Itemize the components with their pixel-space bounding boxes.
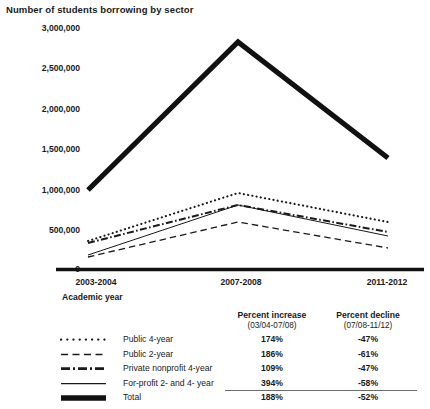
column-header-percent-increase: Percent increase (03/04-07/08)	[222, 310, 322, 331]
series-line-total	[88, 42, 388, 190]
line-style-dashed-icon	[60, 347, 118, 362]
value-increase-public-4-year: 174%	[222, 334, 322, 344]
legend-table-header: Percent increase (03/04-07/08) Percent d…	[60, 310, 426, 332]
chart-screenshot: { "chart_data": { "type": "line", "title…	[0, 0, 430, 409]
legend-label-private-nonprofit-4-year: Private nonprofit 4-year	[123, 363, 212, 373]
value-decline-total: -52%	[318, 392, 418, 402]
legend-row-for-profit-2-and-4-year: For-profit 2- and 4- year 394% -58%	[60, 376, 426, 391]
legend-label-for-profit-2-and-4-year: For-profit 2- and 4- year	[123, 378, 214, 388]
percent-increase-range: (03/04-07/08)	[222, 321, 322, 332]
line-style-solid-thick-icon	[60, 390, 118, 405]
column-header-percent-decline: Percent decline (07/08-11/12)	[318, 310, 418, 331]
value-decline-public-2-year: -61%	[318, 349, 418, 359]
percent-decline-title: Percent decline	[318, 310, 418, 321]
legend-row-public-4-year: Public 4-year 174% -47%	[60, 332, 426, 347]
x-tick-2007-2008: 2007-2008	[220, 277, 261, 287]
legend-table: Percent increase (03/04-07/08) Percent d…	[60, 310, 426, 405]
x-axis-title: Academic year	[62, 292, 123, 302]
legend-label-public-4-year: Public 4-year	[123, 334, 173, 344]
value-decline-for-profit-2-and-4-year: -58%	[318, 378, 418, 388]
plot-area: 0 500,000 1,000,000 1,500,000 2,000,000 …	[0, 0, 430, 300]
series-line-private-nonprofit-4-year	[88, 205, 388, 243]
x-tick-2003-2004: 2003-2004	[75, 277, 116, 287]
value-decline-private-nonprofit-4-year: -47%	[318, 363, 418, 373]
value-decline-public-4-year: -47%	[318, 334, 418, 344]
x-tick-2011-2012: 2011-2012	[367, 277, 408, 287]
legend-label-public-2-year: Public 2-year	[123, 349, 173, 359]
legend-row-public-2-year: Public 2-year 186% -61%	[60, 347, 426, 362]
line-style-dotted-icon	[60, 332, 118, 347]
series-line-for-profit-2-and-4-year	[88, 205, 388, 255]
legend-row-private-nonprofit-4-year: Private nonprofit 4-year 109% -47%	[60, 361, 426, 376]
value-increase-private-nonprofit-4-year: 109%	[222, 363, 322, 373]
percent-increase-title: Percent increase	[222, 310, 322, 321]
value-increase-for-profit-2-and-4-year: 394%	[222, 378, 322, 388]
value-increase-public-2-year: 186%	[222, 349, 322, 359]
line-style-solid-thin-icon	[60, 376, 118, 391]
series-line-public-4-year	[88, 193, 388, 241]
legend-label-total: Total	[123, 392, 141, 402]
line-style-dash-dot-icon	[60, 361, 118, 376]
value-increase-total: 188%	[222, 392, 322, 402]
legend-row-total: Total 188% -52%	[60, 390, 426, 405]
percent-decline-range: (07/08-11/12)	[318, 321, 418, 332]
series-canvas	[0, 0, 430, 300]
